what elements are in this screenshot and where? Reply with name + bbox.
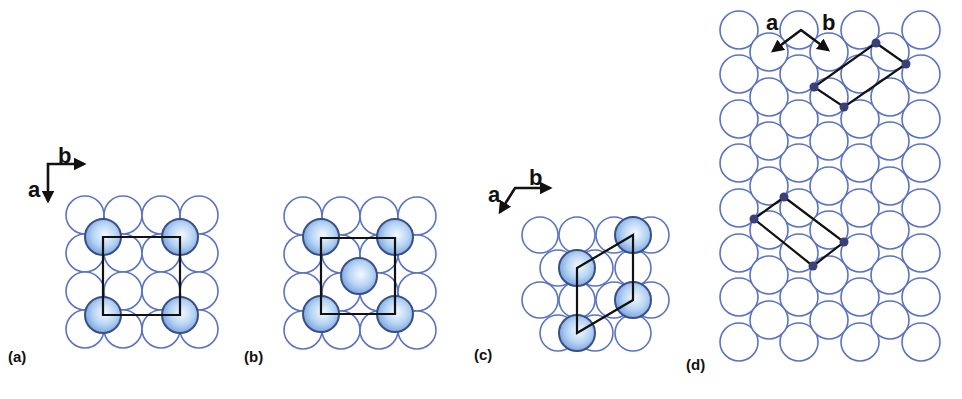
substrate-atom <box>810 122 848 160</box>
substrate-atom <box>871 167 909 205</box>
ab-arrow-icon <box>500 188 550 212</box>
lattice-point-dot <box>750 215 759 224</box>
axis-label-a: a <box>766 10 779 35</box>
panel-label: (c) <box>474 346 492 363</box>
substrate-atom <box>750 78 788 116</box>
axis-label-b: b <box>529 165 542 190</box>
panel-label: (a) <box>8 348 26 365</box>
axis-label-a: a <box>488 182 501 207</box>
axis-arrows: ab <box>28 143 84 202</box>
substrate-atom <box>871 256 909 294</box>
substrate-atom <box>750 256 788 294</box>
substrate-atom <box>750 33 788 71</box>
substrate-atom <box>750 301 788 339</box>
substrate-atom <box>810 301 848 339</box>
substrate-atom <box>522 217 558 253</box>
panel-label: (b) <box>244 348 263 365</box>
lattice-point-dot <box>810 83 819 92</box>
ab-arrow-icon <box>48 164 84 201</box>
substrate-atom <box>522 282 558 318</box>
lattice-point-dot <box>872 39 881 48</box>
substrate-atom <box>810 167 848 205</box>
axis-label-b: b <box>822 10 835 35</box>
lattice-point-dot <box>809 262 818 271</box>
adsorbate-atom <box>341 258 377 294</box>
lattice-point-dot <box>902 60 911 69</box>
figure-canvas: ab(a)(b)ab(c)ab(d) <box>0 0 962 399</box>
panel-label: (d) <box>686 356 705 373</box>
substrate-atom <box>871 211 909 249</box>
panel-c: ab(c) <box>474 165 669 363</box>
lattice-point-dot <box>840 103 849 112</box>
panel-b: (b) <box>244 197 436 365</box>
lattice-point-dot <box>840 238 849 247</box>
substrate-atom <box>871 122 909 160</box>
substrate-atom <box>750 122 788 160</box>
panel-a: ab(a) <box>8 143 218 365</box>
substrate-atom <box>810 256 848 294</box>
panel-d: ab(d) <box>686 10 940 373</box>
axis-label-a: a <box>28 177 41 202</box>
substrate-atom <box>559 217 595 253</box>
axis-label-b: b <box>58 143 71 168</box>
lattice-point-dot <box>780 193 789 202</box>
surface-structures-diagram: ab(a)(b)ab(c)ab(d) <box>0 0 962 399</box>
substrate-atom <box>615 315 651 351</box>
substrate-atom <box>871 301 909 339</box>
axis-arrows: ab <box>488 165 550 212</box>
substrate-atom <box>810 33 848 71</box>
